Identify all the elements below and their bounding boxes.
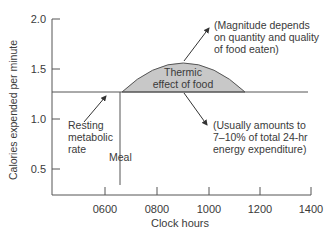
amount-note-line: (Usually amounts to [213,119,306,131]
resting-label-line: metabolic [68,131,113,143]
y-tick-label: 0.5 [31,163,46,175]
amount-note-line: 7–10% of total 24-hr [213,131,308,143]
x-axis-label: Clock hours [151,217,210,229]
y-tick-label: 2.0 [31,13,46,25]
magnitude-note-line: (Magnitude depends [214,19,310,31]
y-tick-label: 1.5 [31,63,46,75]
x-ticks [105,187,311,195]
resting-label-line: Resting [68,119,104,131]
thermic-label-line: Thermic [164,66,202,78]
x-tick-label: 0600 [93,203,117,215]
resting-label-line: rate [68,143,86,155]
x-tick-label: 0800 [145,203,169,215]
magnitude-note-line: of food eaten) [214,43,279,55]
chart-canvas: 2.0 1.5 1.0 0.5 0600 0800 1000 1200 1400… [0,0,334,232]
x-tick-label: 1400 [299,203,323,215]
x-tick-label: 1000 [197,203,221,215]
magnitude-note-line: on quantity and quality [214,31,320,43]
thermic-label-line: effect of food [153,78,214,90]
y-ticks [52,19,60,169]
x-tick-label: 1200 [248,203,272,215]
amount-note-line: energy expenditure) [213,143,306,155]
y-axis-label: Calories expended per minute [7,40,19,180]
meal-label: Meal [109,151,132,163]
amount-arrow [184,93,207,125]
y-tick-label: 1.0 [31,113,46,125]
magnitude-arrow [184,28,209,61]
